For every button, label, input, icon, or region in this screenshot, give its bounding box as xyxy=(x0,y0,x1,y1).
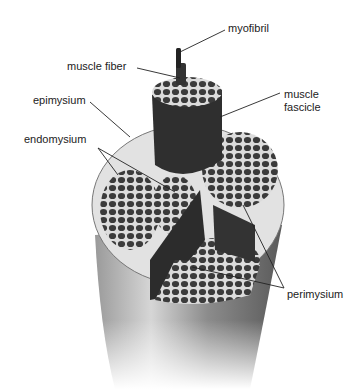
label-muscle-fascicle-1: muscle xyxy=(284,88,319,101)
label-muscle-fascicle-2: fascicle xyxy=(284,101,321,114)
leader-muscle-fascicle xyxy=(220,93,280,117)
leader-muscle-fiber xyxy=(137,68,180,78)
myofibril xyxy=(176,48,181,68)
label-endomysium: endomysium xyxy=(24,133,86,146)
label-muscle-fiber: muscle fiber xyxy=(67,60,126,73)
label-myofibril: myofibril xyxy=(228,22,269,35)
muscle-diagram xyxy=(0,0,361,389)
fascicle xyxy=(100,170,160,250)
leader-myofibril xyxy=(180,30,225,52)
leader-epimysium xyxy=(90,102,130,137)
label-perimysium: perimysium xyxy=(287,288,343,301)
label-epimysium: epimysium xyxy=(33,94,86,107)
